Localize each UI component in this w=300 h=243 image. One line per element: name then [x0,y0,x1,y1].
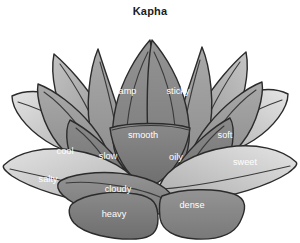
figure-page: Kapha [0,0,300,243]
lotus-flower-icon: damp sticky smooth cool slow oily soft s… [0,24,300,243]
quality-label-smooth: smooth [128,130,158,140]
quality-label-heavy: heavy [102,209,127,219]
page-title: Kapha [0,5,300,17]
quality-label-slow: slow [99,151,118,161]
quality-label-dense: dense [179,200,204,210]
quality-label-cool: cool [57,146,74,156]
quality-label-sweet: sweet [233,157,257,167]
quality-label-oily: oily [169,152,183,162]
quality-label-damp: damp [114,86,137,96]
petal-bottom-right-dense [159,190,244,239]
quality-label-cloudy: cloudy [105,184,132,194]
quality-label-soft: soft [218,130,233,140]
quality-label-salty: salty [39,174,58,184]
quality-label-sticky: sticky [167,86,190,96]
lotus-diagram: damp sticky smooth cool slow oily soft s… [0,24,300,243]
